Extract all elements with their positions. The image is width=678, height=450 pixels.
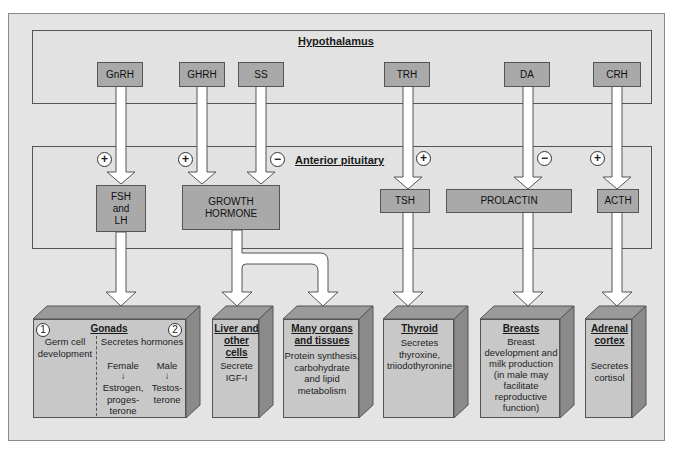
germ-cell-text: Germ cell development bbox=[34, 336, 96, 359]
thyroid-top-face bbox=[383, 306, 468, 319]
hormone-tsh: TSH bbox=[380, 189, 430, 213]
fsh-label: FSH bbox=[111, 191, 131, 203]
target-liver: Liver and other cells Secrete IGF-I bbox=[212, 319, 259, 418]
and-label: and bbox=[113, 203, 130, 215]
target-adrenal-cortex: Adrenal cortex Secretes cortisol bbox=[585, 319, 632, 418]
sign-plus-gnrh: + bbox=[97, 152, 112, 167]
sign-minus-ss: − bbox=[270, 152, 285, 167]
hormone-crh: CRH bbox=[593, 62, 641, 87]
hormone-gnrh: GnRH bbox=[97, 62, 143, 87]
arrow-prolactin-breasts-icon bbox=[513, 212, 543, 306]
hormone-growth-hormone: GROWTH HORMONE bbox=[182, 185, 280, 230]
arrow-ss-icon bbox=[247, 86, 275, 184]
breasts-text: Breast development and milk production (… bbox=[479, 336, 563, 413]
arrow-trh-icon bbox=[394, 86, 422, 189]
lh-label: LH bbox=[115, 215, 128, 227]
target-many-organs: Many organs and tissues Protein synthesi… bbox=[283, 319, 359, 418]
hormone-acth: ACTH bbox=[597, 189, 639, 213]
gh-label-2: HORMONE bbox=[205, 208, 257, 220]
arrow-gnrh-icon bbox=[107, 86, 135, 184]
thyroid-title: Thyroid bbox=[384, 323, 455, 335]
organs-top-face bbox=[283, 306, 373, 319]
arrow-fsh-gonads-icon bbox=[106, 232, 136, 306]
gonads-side-face bbox=[186, 306, 200, 418]
breasts-top-face bbox=[480, 306, 574, 319]
female-products: Estrogen, proges- terone bbox=[96, 382, 150, 417]
target-breasts: Breasts Breast development and milk prod… bbox=[480, 319, 560, 418]
female-arrow-icon: ↓ bbox=[98, 370, 148, 382]
arrow-da-icon bbox=[514, 86, 542, 189]
number-1-badge: 1 bbox=[36, 323, 50, 337]
arrow-ghrh-icon bbox=[188, 86, 216, 184]
number-2-badge: 2 bbox=[168, 323, 182, 337]
hormone-ghrh: GHRH bbox=[179, 62, 225, 87]
arrow-crh-icon bbox=[603, 86, 631, 189]
male-arrow-icon: ↓ bbox=[148, 370, 186, 382]
hormone-ss: SS bbox=[238, 62, 284, 87]
hormone-da: DA bbox=[504, 62, 550, 87]
adrenal-side-face bbox=[632, 306, 646, 418]
hormone-trh: TRH bbox=[384, 62, 430, 87]
liver-title: Liver and other cells bbox=[213, 323, 260, 359]
sign-plus-trh: + bbox=[416, 151, 431, 166]
sign-plus-crh: + bbox=[590, 151, 605, 166]
thyroid-text: Secretes thyroxine, triiodothyronine bbox=[382, 337, 457, 372]
gonads-title: Gonads bbox=[79, 323, 139, 335]
arrow-acth-adrenal-icon bbox=[602, 212, 632, 306]
adrenal-text: Secretes cortisol bbox=[586, 360, 633, 383]
arrow-gh-split-icon bbox=[222, 230, 338, 306]
target-thyroid: Thyroid Secretes thyroxine, triiodothyro… bbox=[383, 319, 454, 418]
organs-title: Many organs and tissues bbox=[284, 323, 360, 347]
arrow-tsh-thyroid-icon bbox=[393, 212, 423, 306]
liver-text: Secrete IGF-I bbox=[213, 360, 260, 383]
adrenal-title: Adrenal cortex bbox=[586, 323, 633, 347]
sign-plus-ghrh: + bbox=[178, 152, 193, 167]
sign-minus-da: − bbox=[537, 151, 552, 166]
target-gonads: 1 2 Gonads Germ cell development Secrete… bbox=[33, 319, 186, 418]
gonads-top-face bbox=[33, 306, 200, 319]
breasts-title: Breasts bbox=[481, 323, 561, 335]
organs-text: Protein synthesis, carbohydrate and lipi… bbox=[282, 350, 362, 396]
liver-side-face bbox=[259, 306, 273, 418]
hormone-prolactin: PROLACTIN bbox=[446, 189, 572, 213]
secretes-hormones-text: Secretes hormones bbox=[98, 336, 186, 348]
hormone-fsh-lh: FSH and LH bbox=[96, 185, 146, 232]
male-products: Testos- terone bbox=[146, 382, 188, 405]
gh-label-1: GROWTH bbox=[208, 196, 254, 208]
